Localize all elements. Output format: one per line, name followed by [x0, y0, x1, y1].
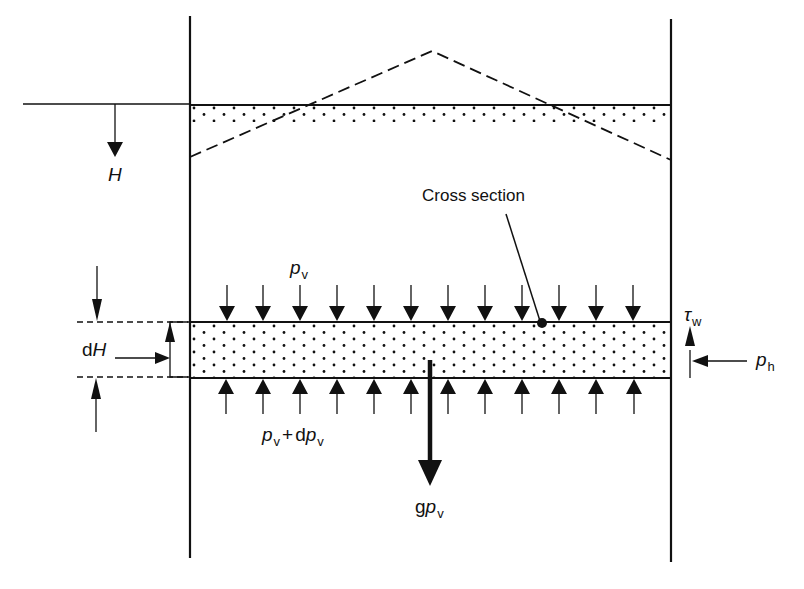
pv-var: p [290, 257, 301, 278]
tau-w-label: τw [684, 305, 702, 324]
surface-material-band [191, 106, 670, 122]
d-prefix: d [295, 424, 306, 445]
pv-sub-4: v [437, 506, 444, 521]
pv-label: pv [290, 258, 308, 277]
dH-prefix: d [82, 339, 93, 360]
ph-var: p [756, 349, 767, 370]
pv-var-2: p [262, 424, 273, 445]
tau-var: τ [684, 304, 691, 325]
left-wall-normal-arrow-icon [115, 352, 170, 364]
plus-sign: + [282, 424, 293, 445]
pv-plus-dpv-label: pv+dpv [262, 425, 324, 444]
tau-sub: w [692, 314, 701, 329]
dH-var: H [93, 339, 107, 360]
silo-diagram [0, 0, 804, 589]
cross-section-label: Cross section [422, 187, 525, 204]
top-pressure-arrows [219, 285, 641, 321]
left-wall-shear-arrow-icon [165, 322, 188, 377]
pv-var-4: p [426, 496, 437, 517]
pv-sub-3: v [317, 434, 324, 449]
wall-shear-arrow-icon [685, 326, 695, 378]
pv-sub: v [302, 267, 309, 282]
pv-sub-2: v [274, 434, 281, 449]
weight-label: gpv [415, 497, 444, 516]
depth-arrow-icon [107, 104, 123, 157]
dH-bottom-arrow-icon [91, 378, 101, 432]
dH-top-arrow-icon [92, 266, 102, 321]
dH-label: dH [82, 340, 106, 359]
ph-label: ph [756, 350, 775, 369]
depth-label: H [108, 165, 122, 184]
ph-sub: h [768, 359, 775, 374]
g-prefix: g [415, 496, 426, 517]
horizontal-pressure-arrow-icon [692, 355, 747, 367]
pv-var-3: p [306, 424, 317, 445]
